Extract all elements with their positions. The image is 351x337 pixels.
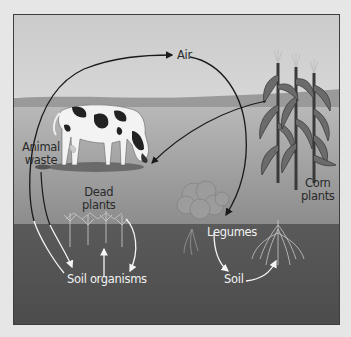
label-corn-plants: Corn plants bbox=[301, 177, 335, 203]
label-corn-plants-line2: plants bbox=[301, 190, 335, 203]
label-soil-organisms: Soil organisms bbox=[67, 273, 147, 286]
label-air: Air bbox=[177, 49, 192, 62]
label-animal-waste: Animal waste bbox=[22, 141, 60, 167]
label-soil: Soil bbox=[224, 273, 244, 286]
label-legumes: Legumes bbox=[207, 226, 257, 239]
nitrogen-cycle-diagram: Air Animal waste Dead plants Corn plants… bbox=[13, 14, 340, 325]
label-animal-waste-line2: waste bbox=[22, 154, 60, 167]
label-dead-plants: Dead plants bbox=[82, 186, 116, 212]
label-dead-plants-line2: plants bbox=[82, 199, 116, 212]
soil-layer bbox=[14, 224, 340, 325]
